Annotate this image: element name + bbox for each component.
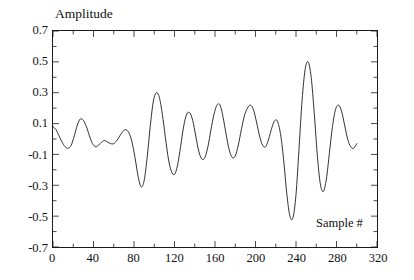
- x-axis-tick-label: 80: [114, 252, 154, 265]
- x-axis-tick-label: 320: [358, 252, 398, 265]
- y-axis-tick-label: 0.3: [2, 86, 48, 99]
- y-axis-tick-label: 0.1: [2, 117, 48, 130]
- y-axis-title: Amplitude: [55, 7, 113, 21]
- x-axis-tick-label: 200: [236, 252, 276, 265]
- x-axis-tick-label: 280: [317, 252, 357, 265]
- x-axis-tick-label: 0: [32, 252, 72, 265]
- y-axis-tick-label: 0.7: [2, 24, 48, 37]
- x-axis-tick-label: 160: [195, 252, 235, 265]
- y-axis-tick-label-group: 0.70.50.30.1-0.1-0.3-0.5-0.7: [0, 0, 48, 280]
- signal-line: [53, 62, 357, 220]
- y-axis-tick-label: 0.5: [2, 55, 48, 68]
- y-axis-tick-label: -0.5: [2, 211, 48, 224]
- y-axis-tick-label: -0.1: [2, 148, 48, 161]
- chart-screenshot: Amplitude 0.70.50.30.1-0.1-0.3-0.5-0.7 S…: [0, 0, 414, 280]
- x-axis-tick-label: 120: [154, 252, 194, 265]
- waveform-plot: [53, 31, 377, 247]
- axis-ticks: [53, 31, 377, 247]
- x-axis-tick-label: 40: [73, 252, 113, 265]
- x-axis-tick-label: 240: [277, 252, 317, 265]
- y-axis-tick-label: -0.3: [2, 179, 48, 192]
- x-axis-title: Sample #: [316, 217, 363, 230]
